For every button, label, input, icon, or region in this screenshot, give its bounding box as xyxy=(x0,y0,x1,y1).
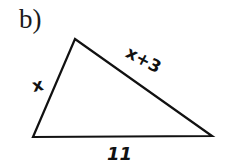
side-label-left: x xyxy=(30,74,45,96)
triangle-diagram: x x+3 11 xyxy=(0,0,226,168)
triangle xyxy=(33,39,212,137)
side-label-bottom: 11 xyxy=(107,143,132,164)
side-label-right: x+3 xyxy=(123,42,165,77)
